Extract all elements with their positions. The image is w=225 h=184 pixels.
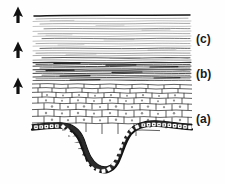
- layer-label-c: (c): [196, 33, 211, 45]
- layer-label-a: (a): [196, 113, 211, 125]
- arrow-up-3: [13, 78, 23, 95]
- arrow-up-1: [13, 7, 23, 24]
- layer-stratum-corneum: [32, 14, 192, 64]
- layer-label-b: (b): [196, 68, 211, 80]
- histology-figure: (c) (b) (a): [0, 0, 225, 184]
- epidermis-diagram: [0, 0, 225, 184]
- direction-arrows: [13, 7, 23, 95]
- layer-transition-zone: [32, 61, 192, 84]
- arrow-up-2: [13, 42, 23, 59]
